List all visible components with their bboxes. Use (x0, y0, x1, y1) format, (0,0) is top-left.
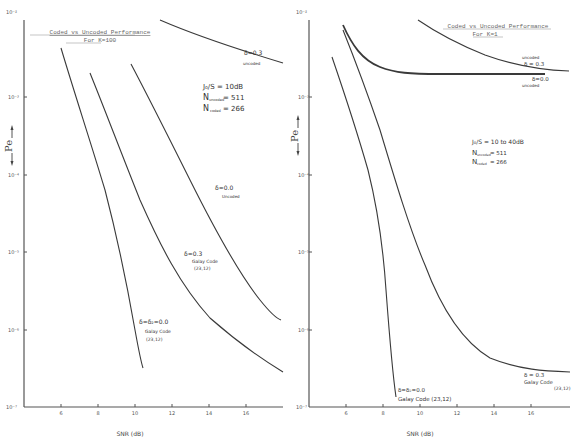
left-label-d00-galay-sub: Galay Code (145, 329, 171, 334)
left-ytick-label: 10⁻³ (8, 94, 19, 100)
right-label-d00-uncoded-sub: uncoded (522, 83, 540, 88)
svg-text:coded: coded (210, 109, 221, 113)
svg-text:N: N (203, 104, 209, 113)
right-ytick-label: 10⁻³ (298, 94, 309, 100)
left-ytick-label: 10⁻⁶ (8, 327, 19, 333)
left-xtick-label: 10 (132, 410, 138, 416)
chart-figure: 10⁻² 10⁻³ 10⁻⁴ 10⁻⁵ 10⁻⁶ 10⁻⁷ 6 8 10 12 … (0, 0, 582, 439)
left-chart: 10⁻² 10⁻³ 10⁻⁴ 10⁻⁵ 10⁻⁶ 10⁻⁷ 6 8 10 12 … (3, 9, 283, 437)
arrow-up-icon (297, 115, 300, 120)
right-xtick-label: 16 (528, 410, 534, 416)
arrow-down-icon (297, 151, 300, 156)
right-label-d03-uncoded: uncoded (522, 55, 540, 60)
arrow-up-icon (11, 125, 14, 130)
arrow-down-icon (11, 161, 14, 166)
left-ytick-label: 10⁻² (6, 9, 17, 15)
right-xtick-label: 14 (491, 410, 497, 416)
svg-text:Pe: Pe (289, 130, 300, 142)
right-xtick-label: 6 (344, 410, 347, 416)
left-label-d00-galay: δ=δ₂=0.0 (139, 318, 169, 325)
svg-text:coded: coded (477, 162, 487, 166)
right-ytick-label: 10⁻⁵ (298, 249, 309, 255)
svg-text:= 511: = 511 (223, 94, 244, 102)
left-label-d03-uncoded-sub: uncoded (243, 61, 261, 66)
right-ytick-label: 10⁻⁴ (298, 172, 309, 178)
left-curve-d00-galay (61, 48, 143, 368)
right-y-axis-label: Pe (289, 115, 300, 156)
left-label-d00-uncoded: δ=0.0 (215, 184, 233, 191)
right-x-axis-label: SNR (dB) (407, 430, 434, 437)
right-xtick-label: 8 (381, 410, 384, 416)
right-x-ticks: 6 8 10 12 14 16 (344, 404, 534, 416)
right-curve-d00-uncoded (343, 25, 545, 74)
left-xtick-label: 12 (169, 410, 175, 416)
svg-text:= 266: = 266 (490, 159, 507, 165)
left-params: J₀/S = 10dB N uncoded = 511 N coded = 26… (202, 83, 245, 113)
svg-text:J₀/S = 10 to 40dB: J₀/S = 10 to 40dB (471, 138, 524, 146)
left-label-d03-galay: δ=0.3 (184, 250, 202, 257)
right-xtick-label: 12 (454, 410, 460, 416)
left-x-axis-label: SNR (dB) (117, 430, 144, 437)
left-xtick-label: 16 (243, 410, 249, 416)
right-params: J₀/S = 10 to 40dB N uncoded = 511 N code… (471, 138, 524, 166)
right-chart: 10⁻² 10⁻³ 10⁻⁴ 10⁻⁵ 10⁻⁶ 10⁻⁷ 6 8 10 12 … (289, 9, 571, 437)
right-label-d00-uncoded: δ=0.0 (532, 76, 549, 82)
left-xtick-label: 14 (206, 410, 212, 416)
right-label-d00-galay-sub: Galay Code (23,12) (398, 396, 451, 403)
right-label-d03-galay-code: (23,12) (554, 386, 571, 391)
right-label-d03-galay: δ = 0.3 (524, 372, 545, 378)
right-label-d03-galay-sub: Galay Code (524, 379, 553, 386)
left-label-d03-uncoded: δ=0.3 (244, 49, 262, 56)
right-curve-d00-galay (332, 57, 396, 397)
left-curve-d03-galay (90, 73, 283, 372)
left-ytick-label: 10⁻⁷ (6, 404, 17, 410)
right-ytick-label: 10⁻⁶ (298, 327, 309, 333)
svg-text:J₀/S = 10dB: J₀/S = 10dB (202, 83, 243, 91)
left-label-d00-uncoded-sub: Uncoded (222, 194, 240, 199)
svg-text:Pe: Pe (3, 140, 14, 152)
right-label-d00-galay: δ=δ₂=0.0 (398, 387, 425, 393)
svg-text:= 266: = 266 (223, 105, 245, 113)
left-xtick-label: 6 (59, 410, 62, 416)
svg-text:= 511: = 511 (490, 150, 507, 156)
right-xtick-label: 10 (417, 410, 423, 416)
left-xtick-label: 8 (96, 410, 99, 416)
right-ytick-label: 10⁻⁷ (296, 404, 307, 410)
left-ytick-label: 10⁻⁵ (8, 249, 19, 255)
right-ytick-label: 10⁻² (296, 9, 307, 15)
left-x-ticks: 6 8 10 12 14 16 (59, 404, 249, 416)
svg-text:uncoded: uncoded (477, 153, 491, 157)
left-label-d03-galay-code: (23,12) (194, 266, 211, 271)
left-label-d03-galay-sub: Galay Code (192, 259, 218, 264)
left-curve-d00-uncoded (131, 64, 281, 320)
left-curve-d03-uncoded (160, 20, 283, 63)
left-label-d00-galay-code: (23,12) (146, 337, 163, 342)
right-label-d03-uncoded-sub: δ = 0.3 (524, 61, 545, 67)
svg-text:uncoded: uncoded (209, 98, 224, 102)
left-y-axis-label: Pe (3, 125, 14, 166)
left-ytick-label: 10⁻⁴ (8, 172, 19, 178)
